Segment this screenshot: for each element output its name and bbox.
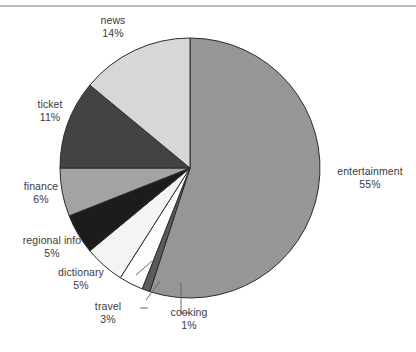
slice-label-ticket: ticket 11% <box>20 98 80 124</box>
slice-label-travel-value: 3% <box>78 313 138 326</box>
slice-label-entertainment: entertainment 55% <box>324 165 416 191</box>
slice-label-news-name: news <box>78 14 148 27</box>
slice-label-dictionary-name: dictionary <box>33 266 129 279</box>
slice-label-regional-info: regional info 5% <box>0 234 104 260</box>
slice-label-dictionary: dictionary 5% <box>33 266 129 292</box>
slice-label-regional-info-value: 5% <box>0 247 104 260</box>
slice-label-regional-info-name: regional info <box>0 234 104 247</box>
slice-label-entertainment-name: entertainment <box>324 165 416 178</box>
slice-label-entertainment-value: 55% <box>324 178 416 191</box>
slice-label-ticket-name: ticket <box>20 98 80 111</box>
slice-label-travel-name: travel <box>78 300 138 313</box>
pie-chart-figure: news 14% ticket 11% finance 6% regional … <box>0 0 416 352</box>
slice-label-cooking: cooking 1% <box>155 306 223 332</box>
slice-label-ticket-value: 11% <box>20 111 80 124</box>
slice-label-travel: travel 3% <box>78 300 138 326</box>
slice-label-news-value: 14% <box>78 27 148 40</box>
slice-label-cooking-name: cooking <box>155 306 223 319</box>
slice-label-finance: finance 6% <box>8 180 74 206</box>
slice-label-cooking-value: 1% <box>155 319 223 332</box>
slice-label-finance-name: finance <box>8 180 74 193</box>
slice-label-news: news 14% <box>78 14 148 40</box>
slice-label-dictionary-value: 5% <box>33 279 129 292</box>
slice-label-finance-value: 6% <box>8 193 74 206</box>
